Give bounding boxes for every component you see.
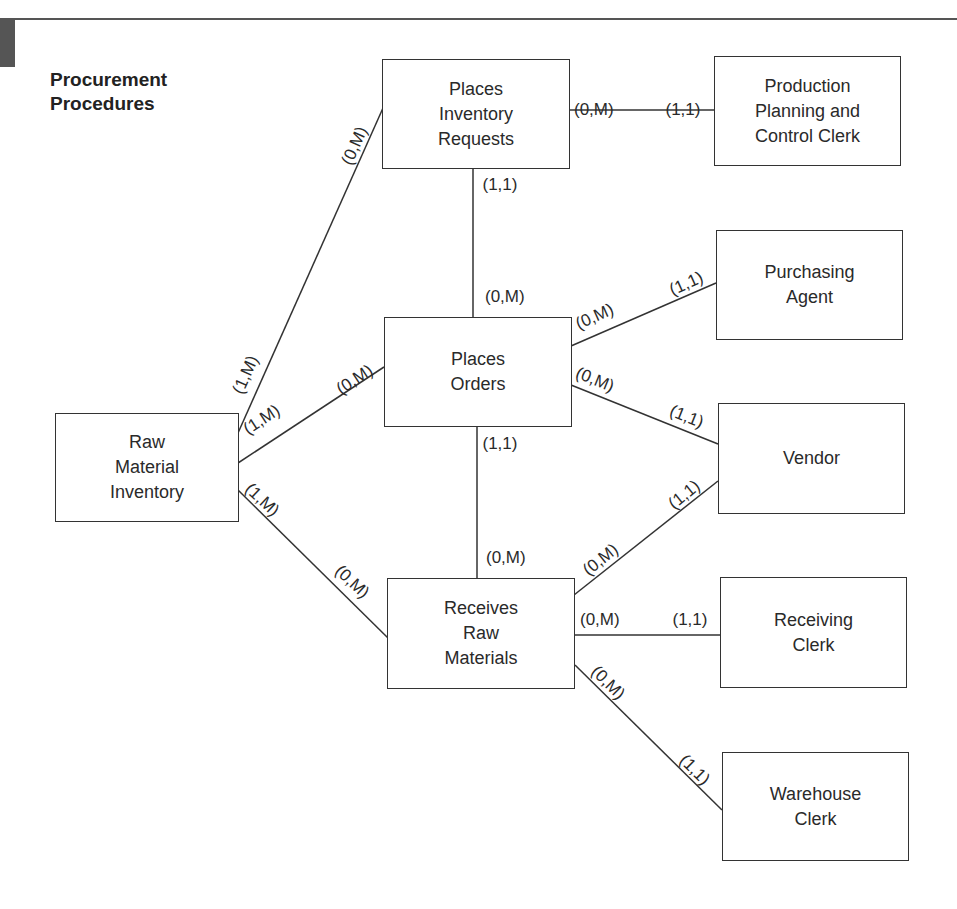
cardinality-label: (1,1) (673, 610, 708, 630)
cardinality-label: (1,1) (666, 100, 701, 120)
entity-label: Purchasing Agent (764, 260, 854, 310)
cardinality-label: (0,M) (580, 610, 620, 630)
entity-label: Warehouse Clerk (770, 782, 861, 832)
cardinality-label: (1,1) (483, 434, 518, 454)
entity-label: Vendor (783, 446, 840, 471)
entity-box-production-planning-control-clerk: Production Planning and Control Clerk (714, 56, 901, 166)
entity-box-purchasing-agent: Purchasing Agent (716, 230, 903, 340)
entity-label: Receives Raw Materials (444, 596, 518, 671)
entity-label: Production Planning and Control Clerk (755, 74, 860, 149)
entity-box-places-inventory-requests: Places Inventory Requests (382, 59, 570, 169)
cardinality-label: (0,M) (485, 287, 525, 307)
entity-box-warehouse-clerk: Warehouse Clerk (722, 752, 909, 861)
entity-label: Places Orders (450, 347, 505, 397)
cardinality-label: (1,1) (483, 175, 518, 195)
entity-box-vendor: Vendor (718, 403, 905, 514)
entity-label: Raw Material Inventory (110, 430, 184, 505)
entity-box-receives-raw-materials: Receives Raw Materials (387, 578, 575, 689)
cardinality-label: (0,M) (574, 100, 614, 120)
entity-box-raw-material-inventory: Raw Material Inventory (55, 413, 239, 522)
entity-box-places-orders: Places Orders (384, 317, 572, 427)
entity-box-receiving-clerk: Receiving Clerk (720, 577, 907, 688)
entity-label: Receiving Clerk (774, 608, 853, 658)
cardinality-label: (0,M) (486, 548, 526, 568)
entity-label: Places Inventory Requests (438, 77, 514, 152)
